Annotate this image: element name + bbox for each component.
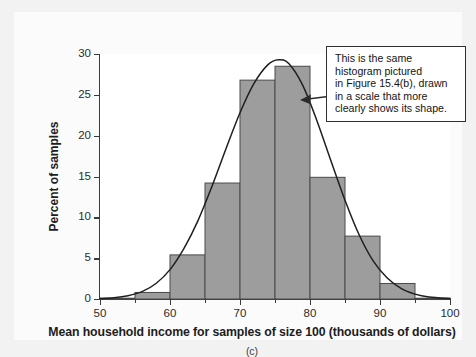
x-tick-label: 50 xyxy=(94,308,107,320)
x-tick-mark xyxy=(240,299,241,305)
panel-caption: (c) xyxy=(28,345,476,357)
y-tick-label: 20 xyxy=(78,130,91,142)
annotation-line-4: in a scale that more xyxy=(335,90,458,103)
y-tick-label: 5 xyxy=(85,252,91,264)
x-tick-mark xyxy=(415,299,416,303)
y-tick-label: 30 xyxy=(78,48,91,60)
annotation-line-2: histogram pictured xyxy=(335,65,458,78)
y-axis-title: Percent of samples xyxy=(47,54,62,299)
x-tick-mark xyxy=(170,299,171,305)
x-tick-label: 60 xyxy=(164,308,177,320)
y-tick-label: 25 xyxy=(78,89,91,101)
y-tick-mark xyxy=(94,136,100,137)
x-tick-mark xyxy=(275,299,276,303)
y-tick-mark xyxy=(94,54,100,55)
annotation-callout: This is the same histogram pictured in F… xyxy=(326,46,466,122)
x-tick-label: 90 xyxy=(374,308,387,320)
figure-canvas: Percent of samples 051015202530 50607080… xyxy=(14,12,462,340)
y-tick-mark xyxy=(94,258,100,259)
y-tick-mark xyxy=(94,95,100,96)
y-tick-label: 0 xyxy=(85,293,91,305)
x-axis-title: Mean household income for samples of siz… xyxy=(28,325,476,339)
annotation-line-5: clearly shows its shape. xyxy=(335,102,458,115)
x-tick-mark xyxy=(100,299,101,305)
y-tick-label: 10 xyxy=(78,212,91,224)
annotation-line-3: in Figure 15.4(b), drawn xyxy=(335,77,458,90)
x-tick-mark xyxy=(345,299,346,303)
annotation-line-1: This is the same xyxy=(335,52,458,65)
x-tick-label: 80 xyxy=(304,308,317,320)
x-tick-mark xyxy=(135,299,136,303)
y-tick-mark xyxy=(94,177,100,178)
x-tick-mark xyxy=(450,299,451,305)
x-tick-mark xyxy=(380,299,381,305)
x-tick-label: 100 xyxy=(440,308,459,320)
y-tick-mark xyxy=(94,217,100,218)
y-tick-label: 15 xyxy=(78,171,91,183)
x-tick-mark xyxy=(205,299,206,303)
x-tick-label: 70 xyxy=(234,308,247,320)
x-tick-mark xyxy=(310,299,311,305)
